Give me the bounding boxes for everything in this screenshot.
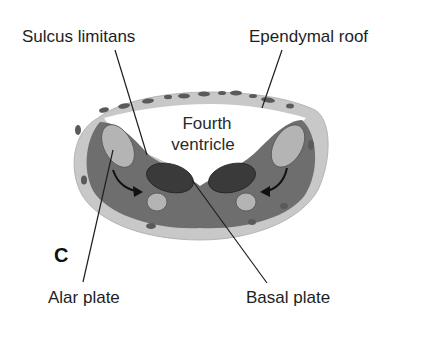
label-fourth-ventricle-line1: Fourth xyxy=(182,114,231,133)
label-basal-plate: Basal plate xyxy=(246,288,330,307)
label-fourth-ventricle-line2: ventricle xyxy=(171,135,234,154)
migrated-nucleus-right xyxy=(236,193,256,211)
label-sulcus-limitans: Sulcus limitans xyxy=(22,27,135,46)
label-ependymal-roof: Ependymal roof xyxy=(249,27,368,46)
panel-letter: C xyxy=(54,244,68,266)
hindbrain-cross-section-figure: Sulcus limitans Ependymal roof Fourth ve… xyxy=(0,0,422,343)
migrated-nucleus-left xyxy=(147,193,167,211)
label-alar-plate: Alar plate xyxy=(48,288,120,307)
